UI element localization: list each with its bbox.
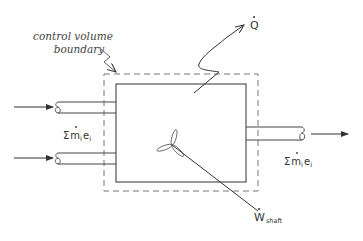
inlet-pipe-bottom	[55, 153, 116, 164]
heat-dot	[253, 16, 255, 18]
outlet-mdot-dot	[296, 152, 298, 154]
control-volume-diagram: control volume boundary Σmiei Σmiei Q	[0, 0, 363, 241]
outlet-pipe	[246, 127, 305, 140]
inlet-pipe-top	[55, 102, 116, 113]
heat-rate-label: Q	[250, 19, 259, 32]
heat-transfer-arrow	[194, 25, 244, 93]
shaft	[172, 145, 258, 211]
work-dot	[258, 208, 260, 210]
fan-icon	[156, 129, 185, 158]
boundary-label: control volume boundary	[33, 30, 113, 55]
shaft-work-label: Wshaft	[254, 211, 283, 225]
device-body	[116, 84, 246, 182]
boundary-label-line1: control volume	[33, 30, 113, 42]
boundary-label-line2: boundary	[54, 43, 106, 55]
inlet-mdot-dot	[75, 126, 77, 128]
control-volume-boundary	[104, 74, 258, 191]
inlet-energy-label: Σmiei	[63, 130, 91, 143]
outlet-energy-label: Σmiei	[284, 156, 312, 169]
